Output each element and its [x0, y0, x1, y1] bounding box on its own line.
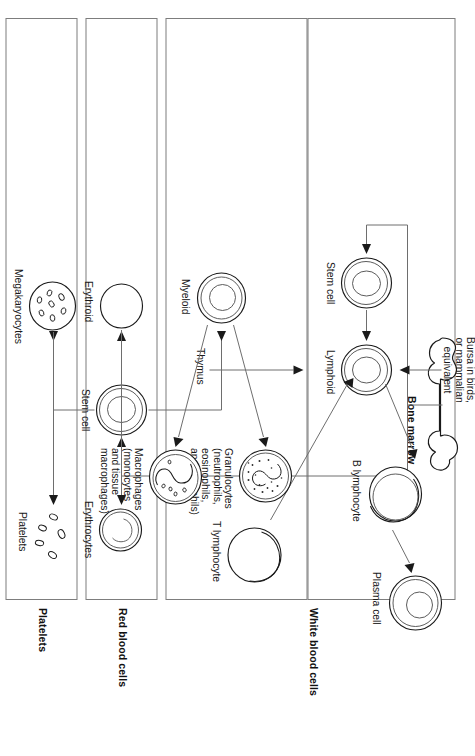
cell-platelets: [31, 508, 73, 570]
platelets-cell-label: Platelets: [16, 512, 27, 552]
